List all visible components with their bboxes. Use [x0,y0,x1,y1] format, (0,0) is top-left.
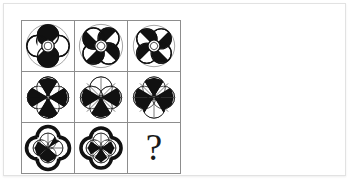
matrix-cell-r3c2[interactable] [75,123,128,174]
matrix-cell-r1c2[interactable] [75,21,128,72]
matrix-grid: ? [21,20,181,174]
missing-tile-indicator: ? [146,133,162,163]
question-mark-label: ? [146,133,162,163]
four-circle-pinwheel-eight-wedge-icon [23,74,73,121]
puzzle-card: ? [3,3,346,176]
matrix-cell-r1c3[interactable] [128,21,181,72]
matrix-cell-r2c3[interactable] [128,72,181,123]
four-circle-pinwheel-lower-black-icon [76,74,126,121]
matrix-cell-r2c1[interactable] [22,72,75,123]
quatrefoil-four-petal-halved-rotated-icon [75,22,127,70]
matrix-cell-r2c2[interactable] [75,72,128,123]
quatrefoil-four-petal-halved-variant-icon [129,23,179,69]
matrix-cell-r3c3[interactable]: ? [128,123,181,174]
bold-quatrefoil-inner-pinwheel-icon [22,124,74,172]
matrix-cell-r3c1[interactable] [22,123,75,174]
quatrefoil-four-petal-halved-icon [22,22,74,70]
matrix-cell-r1c1[interactable] [22,21,75,72]
four-circle-pinwheel-mixed-icon [129,74,179,121]
bold-quatrefoil-inner-pinwheel-variant-icon [75,124,127,172]
